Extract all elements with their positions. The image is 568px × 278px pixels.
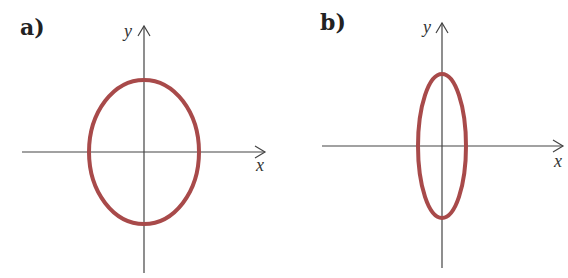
panel-b-axes <box>322 23 563 268</box>
panel-a-label: a) <box>20 16 45 38</box>
panel-a-y-axis-label: y <box>124 22 132 40</box>
panel-a-x-axis-label: x <box>256 156 264 174</box>
panel-b-y-axis-label: y <box>423 18 431 36</box>
diagram-canvas <box>0 0 568 278</box>
panel-a-axes <box>22 26 265 273</box>
panel-b-label: b) <box>320 11 346 33</box>
panel-b-x-axis-label: x <box>554 152 562 170</box>
